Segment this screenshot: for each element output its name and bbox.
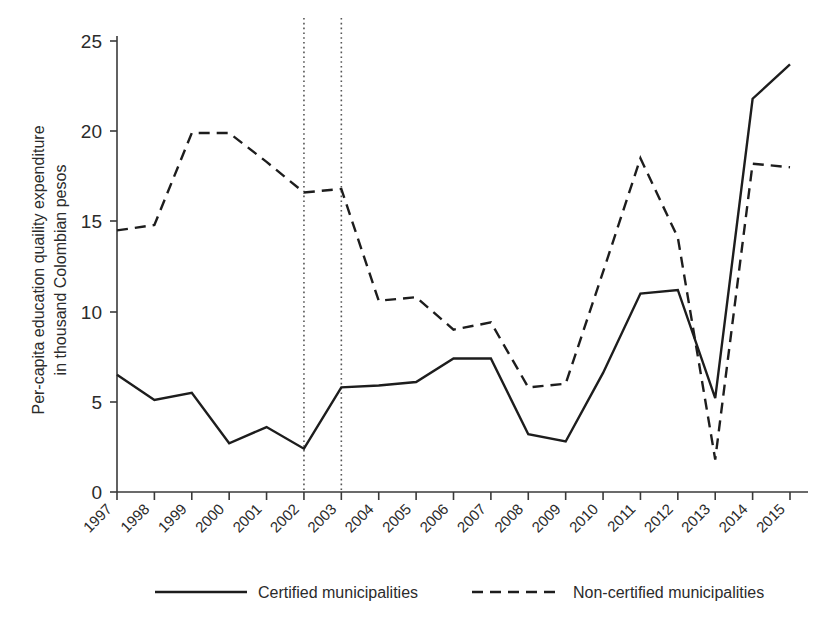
y-axis-title-line2: in thousand Colombian pesos bbox=[52, 165, 69, 376]
y-tick-label-5: 5 bbox=[91, 392, 102, 413]
y-tick-label-20: 20 bbox=[81, 121, 102, 142]
y-tick-label-10: 10 bbox=[81, 302, 102, 323]
chart-figure: Per-capita education quaility expenditur… bbox=[0, 0, 828, 617]
legend-label-certified: Certified municipalities bbox=[258, 584, 418, 601]
y-tick-label-15: 15 bbox=[81, 211, 102, 232]
y-tick-label-25: 25 bbox=[81, 31, 102, 52]
legend-label-non-certified: Non-certified municipalities bbox=[573, 584, 764, 601]
line-chart-canvas: Per-capita education quaility expenditur… bbox=[0, 0, 828, 617]
y-axis-title-line1: Per-capita education quaility expenditur… bbox=[30, 125, 47, 414]
y-tick-label-0: 0 bbox=[91, 482, 102, 503]
